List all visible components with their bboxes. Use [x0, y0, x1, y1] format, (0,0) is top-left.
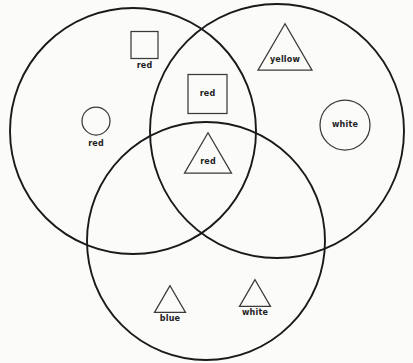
- item-shape-triangle-blue-bottom: [155, 286, 186, 313]
- item-label-square-red-center-top: red: [200, 90, 216, 98]
- venn-diagram-canvas: [0, 0, 413, 363]
- item-label-square-red-left: red: [137, 62, 153, 70]
- venn-set-circles: [10, 4, 404, 360]
- item-label-triangle-blue-bottom: blue: [160, 315, 180, 323]
- item-shape-circle-red-left: [82, 107, 110, 135]
- item-label-circle-white-right: white: [332, 121, 358, 129]
- venn-diagram: redredyellowwhiteredredbluewhite: [0, 0, 413, 363]
- venn-item-shapes: [82, 24, 370, 313]
- venn-set-right-circle: [150, 4, 404, 258]
- item-shape-triangle-white-bottom: [240, 280, 271, 307]
- item-shape-square-red-left: [131, 32, 158, 59]
- item-shape-triangle-red-center: [185, 133, 232, 173]
- item-label-triangle-red-center: red: [200, 158, 216, 166]
- venn-set-left-circle: [10, 8, 256, 254]
- item-label-circle-red-left: red: [88, 140, 104, 148]
- item-label-triangle-yellow-right: yellow: [270, 56, 300, 64]
- item-label-triangle-white-bottom: white: [242, 309, 268, 317]
